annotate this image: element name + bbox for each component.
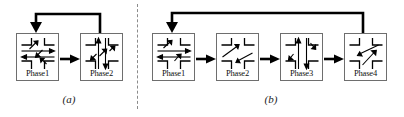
intersection-diagram-a1 [18,37,57,71]
figure-root: Phase1 [0,0,404,117]
panel-b-phase-label-2: Phase2 [217,68,258,78]
panel-b-phase-box-3[interactable]: Phase3 [280,33,323,81]
panel-a-phase-box-2[interactable]: Phase2 [80,33,123,81]
panel-a-phase-label-2: Phase2 [81,68,122,78]
intersection-diagram-b3 [282,37,321,71]
intersection-diagram-b1 [154,37,193,71]
panel-b-arrow-phase1-phase2 [195,53,217,65]
intersection-diagram-b2 [218,37,257,71]
panel-b-phase-box-2[interactable]: Phase2 [216,33,259,81]
panel-b-phase-label-1: Phase1 [153,68,194,78]
panel-b: Phase1 [138,0,404,117]
intersection-diagram-a2 [82,37,121,71]
panel-b-caption: (b) [138,93,404,105]
panel-a: Phase1 [0,0,138,117]
panel-b-arrow-phase2-phase3 [259,53,281,65]
panel-a-caption: (a) [0,93,138,105]
panel-a-arrow-phase1-phase2 [59,53,81,65]
panel-a-phase-label-1: Phase1 [17,68,58,78]
panel-b-phase-box-1[interactable]: Phase1 [152,33,195,81]
panel-b-phase-label-4: Phase4 [345,68,386,78]
intersection-diagram-b4 [346,37,385,71]
panel-b-phase-label-3: Phase3 [281,68,322,78]
panel-b-arrow-phase3-phase4 [323,53,345,65]
panel-b-phase-box-4[interactable]: Phase4 [344,33,387,81]
panel-a-phase-box-1[interactable]: Phase1 [16,33,59,81]
